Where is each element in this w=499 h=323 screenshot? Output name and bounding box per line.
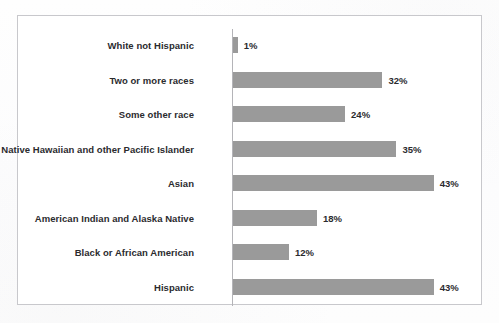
bar-some-other-race xyxy=(233,106,345,122)
bar-native-hawaiian-and-other-pacific-islander xyxy=(233,141,396,157)
bar-row: Black or African American 12% xyxy=(18,244,481,260)
bar-value-label: 12% xyxy=(295,247,314,258)
bar-row: American Indian and Alaska Native 18% xyxy=(18,210,481,226)
bar-value-label: 32% xyxy=(388,74,407,85)
bar-category-label: Some other race xyxy=(119,109,194,120)
bar-category-label: Black or African American xyxy=(75,247,194,258)
bar-value-label: 43% xyxy=(440,178,459,189)
bar-black-or-african-american xyxy=(233,244,289,260)
bar-category-label: Asian xyxy=(168,178,194,189)
bar-row: Asian 43% xyxy=(18,175,481,191)
bar-value-label: 1% xyxy=(244,40,258,51)
bar-asian xyxy=(233,175,434,191)
bar-category-label: Two or more races xyxy=(109,74,194,85)
bar-category-label: Native Hawaiian and other Pacific Island… xyxy=(1,143,194,154)
page-background: White not Hispanic 1% Two or more races … xyxy=(0,0,499,323)
bar-white-not-hispanic xyxy=(233,37,238,53)
bar-row: Hispanic 43% xyxy=(18,279,481,295)
bar-row: Some other race 24% xyxy=(18,106,481,122)
bar-category-label: American Indian and Alaska Native xyxy=(35,212,194,223)
bar-row: Two or more races 32% xyxy=(18,72,481,88)
bar-row: White not Hispanic 1% xyxy=(18,37,481,53)
bar-value-label: 18% xyxy=(323,212,342,223)
bar-american-indian-and-alaska-native xyxy=(233,210,317,226)
bar-row: Native Hawaiian and other Pacific Island… xyxy=(18,141,481,157)
chart-frame: White not Hispanic 1% Two or more races … xyxy=(17,15,482,305)
bar-value-label: 43% xyxy=(440,281,459,292)
bar-category-label: White not Hispanic xyxy=(108,40,194,51)
bar-chart-plot-area: White not Hispanic 1% Two or more races … xyxy=(18,16,481,304)
bar-value-label: 35% xyxy=(402,143,421,154)
bar-two-or-more-races xyxy=(233,72,382,88)
bar-value-label: 24% xyxy=(351,109,370,120)
bar-category-label: Hispanic xyxy=(154,281,194,292)
bar-hispanic xyxy=(233,279,434,295)
